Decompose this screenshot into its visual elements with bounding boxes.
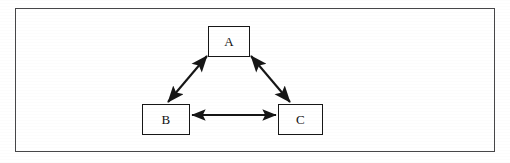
node-a-label: A <box>224 35 234 48</box>
diagram-edges-layer <box>0 0 510 163</box>
edge-a-b <box>168 56 207 102</box>
node-b-label: B <box>162 113 171 126</box>
diagram-canvas: A B C <box>0 0 510 163</box>
node-c-label: C <box>296 113 305 126</box>
edge-a-c <box>251 56 290 102</box>
node-b: B <box>142 104 190 135</box>
node-a: A <box>208 26 250 57</box>
node-c: C <box>278 104 323 135</box>
